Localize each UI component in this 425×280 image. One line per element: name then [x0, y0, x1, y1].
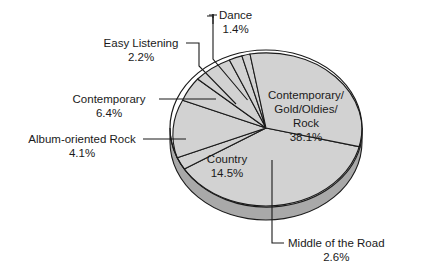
label-middle-of-the-road-name: Middle of the Road	[288, 237, 385, 251]
label-country-percent: 14.5%	[193, 167, 261, 181]
label-album-oriented-rock-percent: 4.1%	[25, 147, 139, 161]
label-cgor-line1: Contemporary/	[255, 88, 357, 102]
label-cgor-percent: 38.1%	[255, 130, 357, 144]
label-cgor-line2: Gold/Oldies/	[255, 102, 357, 116]
label-dance-name: Dance	[219, 9, 252, 23]
leader-ticks	[207, 16, 213, 24]
label-contemporary-percent: 6.4%	[63, 107, 155, 121]
label-easy-listening-name: Easy Listening	[97, 37, 185, 51]
label-easy-listening: Easy Listening 2.2%	[97, 37, 185, 64]
label-contemporary-gold-oldies-rock: Contemporary/ Gold/Oldies/ Rock 38.1%	[255, 88, 357, 144]
label-middle-of-the-road-percent: 2.6%	[288, 251, 385, 265]
label-album-oriented-rock: Album-oriented Rock 4.1%	[25, 133, 139, 160]
tick-dance	[207, 16, 213, 24]
label-contemporary: Contemporary 6.4%	[63, 93, 155, 120]
label-album-oriented-rock-name: Album-oriented Rock	[25, 133, 139, 147]
label-dance: Dance 1.4%	[219, 9, 252, 36]
label-cgor-line3: Rock	[255, 116, 357, 130]
label-middle-of-the-road: Middle of the Road 2.6%	[288, 237, 385, 264]
label-dance-percent: 1.4%	[219, 23, 252, 37]
pie-chart-figure: Dance 1.4% Easy Listening 2.2% Contempor…	[0, 0, 425, 280]
label-country-name: Country	[193, 153, 261, 167]
label-contemporary-name: Contemporary	[63, 93, 155, 107]
label-easy-listening-percent: 2.2%	[97, 51, 185, 65]
label-country: Country 14.5%	[193, 153, 261, 180]
